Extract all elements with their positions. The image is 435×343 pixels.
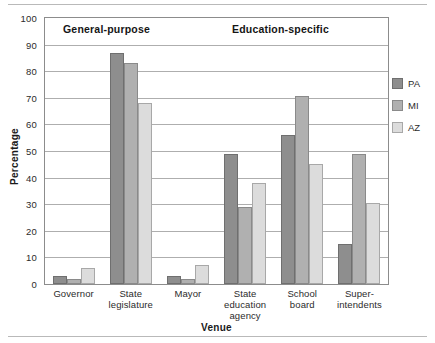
bar-groups [45, 18, 388, 284]
x-axis-category-label: Governor [45, 288, 102, 321]
y-axis-tick-label: 50 [26, 146, 37, 157]
bar-pa[interactable] [338, 244, 352, 284]
legend-swatch-icon [392, 122, 403, 133]
x-axis-category-label: Statelegislature [102, 288, 159, 321]
bar-group [102, 18, 159, 284]
legend-swatch-icon [392, 78, 403, 89]
y-axis-tick-label: 80 [26, 66, 37, 77]
y-axis-tick-label: 60 [26, 119, 37, 130]
bar-group [274, 18, 331, 284]
x-axis-category-label: Stateeducationagency [217, 288, 274, 321]
bar-pa[interactable] [167, 276, 181, 284]
y-axis-tick-label: 30 [26, 199, 37, 210]
x-axis-label-line: Governor [45, 288, 102, 299]
y-axis-tick-label: 10 [26, 252, 37, 263]
bar-group [217, 18, 274, 284]
bar-pa[interactable] [224, 154, 238, 284]
legend-item-mi[interactable]: MI [392, 94, 434, 116]
y-axis-tick-label: 20 [26, 225, 37, 236]
annotation-general-purpose: General-purpose [63, 23, 150, 35]
x-axis-category-label: Super-intendents [331, 288, 388, 321]
y-axis-tick-label: 100 [21, 13, 37, 24]
x-axis-label-line: education [217, 299, 274, 310]
x-axis-label-line: Mayor [159, 288, 216, 299]
x-axis-label-line: State [102, 288, 159, 299]
x-axis-title: Venue [45, 322, 388, 333]
y-axis-tick-label: 0 [32, 279, 37, 290]
bar-az[interactable] [309, 164, 323, 284]
bar-az[interactable] [252, 183, 266, 284]
bar-mi[interactable] [295, 96, 309, 284]
x-axis-category-labels: GovernorStatelegislatureMayorStateeducat… [45, 288, 388, 321]
legend-label: PA [408, 78, 420, 89]
bar-group [159, 18, 216, 284]
legend-label: AZ [408, 122, 420, 133]
x-axis-category-label: Mayor [159, 288, 216, 321]
legend-label: MI [408, 100, 419, 111]
bar-mi[interactable] [67, 279, 81, 284]
chart-figure: 1009080706050403020100 Percentage Genera… [0, 0, 435, 343]
bar-az[interactable] [138, 103, 152, 284]
legend-swatch-icon [392, 100, 403, 111]
y-axis-tick-label: 70 [26, 92, 37, 103]
legend: PAMIAZ [392, 72, 434, 138]
bar-az[interactable] [195, 265, 209, 284]
top-divider-rule [8, 4, 427, 5]
bar-az[interactable] [366, 203, 380, 284]
x-axis-label-line: Super- [331, 288, 388, 299]
legend-item-az[interactable]: AZ [392, 116, 434, 138]
bar-group [45, 18, 102, 284]
y-axis-tick-label: 90 [26, 39, 37, 50]
bar-pa[interactable] [53, 276, 67, 284]
bar-mi[interactable] [352, 154, 366, 284]
bar-pa[interactable] [281, 135, 295, 284]
x-axis-label-line: State [217, 288, 274, 299]
bottom-divider-rule [8, 336, 427, 337]
x-axis-label-line: intendents [331, 299, 388, 310]
y-axis-tick-label: 40 [26, 172, 37, 183]
legend-item-pa[interactable]: PA [392, 72, 434, 94]
x-axis-label-line: agency [217, 310, 274, 321]
bar-group [331, 18, 388, 284]
bar-mi[interactable] [238, 207, 252, 284]
x-axis-label-line: board [274, 299, 331, 310]
annotation-education-specific: Education-specific [232, 23, 329, 35]
x-axis-label-line: legislature [102, 299, 159, 310]
bar-mi[interactable] [181, 279, 195, 284]
x-axis-label-line: School [274, 288, 331, 299]
bar-mi[interactable] [124, 63, 138, 284]
bar-az[interactable] [81, 268, 95, 284]
y-axis-title: Percentage [9, 107, 20, 207]
x-axis-category-label: Schoolboard [274, 288, 331, 321]
bar-pa[interactable] [110, 53, 124, 284]
y-axis-ticks: 1009080706050403020100 [0, 17, 42, 285]
